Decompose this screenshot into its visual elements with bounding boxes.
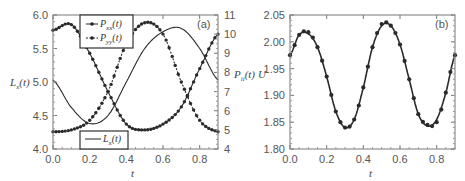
data-point (161, 32, 164, 35)
data-point (329, 93, 333, 97)
panel-a-x-title: t (131, 167, 135, 179)
data-point (140, 22, 143, 25)
data-point (180, 80, 183, 83)
data-point (106, 90, 109, 93)
data-point (116, 66, 119, 69)
data-point (448, 70, 452, 74)
data-point (63, 22, 66, 25)
data-point (122, 119, 125, 122)
panel-b-y-title: U (258, 68, 267, 80)
panel-a-y-right-title: Pii(t) (233, 68, 255, 83)
panel-b-ticks: 0.00.20.40.60.81.801.851.901.952.002.05 (264, 9, 455, 165)
panel-b-frame (290, 15, 455, 149)
panel-b-curves (288, 20, 457, 130)
x-tick-label: 0.8 (192, 153, 207, 165)
y-left-tick-label: 5.5 (33, 43, 48, 55)
data-point (348, 125, 352, 129)
y-tick-label: 1.95 (264, 63, 285, 75)
data-point (88, 119, 91, 122)
data-point (91, 115, 94, 118)
x-tick-label: 0.4 (356, 153, 371, 165)
data-point (352, 117, 356, 121)
data-point (210, 41, 213, 44)
data-point (180, 105, 183, 108)
data-point (195, 73, 198, 76)
data-point (204, 54, 207, 57)
data-point (306, 30, 310, 34)
data-point (97, 107, 100, 110)
data-point (128, 125, 131, 128)
y-tick-label: 2.05 (264, 9, 285, 21)
data-point (61, 24, 64, 27)
panel-b: 0.00.20.40.60.81.801.851.901.952.002.05 … (258, 9, 457, 179)
data-point (366, 65, 370, 69)
panel-a-curves (51, 21, 219, 134)
data-point (361, 85, 365, 89)
data-point (152, 22, 155, 25)
data-point (189, 87, 192, 90)
data-point (125, 122, 128, 125)
data-point (103, 84, 106, 87)
x-tick-label: 0.2 (319, 153, 334, 165)
data-point (398, 42, 402, 46)
legend-pxx-marker-icon (90, 22, 94, 26)
data-point (140, 128, 143, 131)
data-point (421, 120, 425, 124)
data-point (67, 22, 70, 25)
y-tick-label: 2.00 (264, 36, 285, 48)
data-point (439, 108, 443, 112)
data-point (76, 30, 79, 33)
y-tick-label: 1.80 (264, 143, 285, 155)
data-point (357, 103, 361, 107)
data-point (174, 64, 177, 67)
data-point (207, 47, 210, 50)
data-point (171, 116, 174, 119)
data-point (137, 25, 140, 28)
data-point (149, 21, 152, 24)
data-point (109, 96, 112, 99)
series-u-line (290, 23, 455, 128)
data-point (375, 31, 379, 35)
y-right-tick-label: 10 (224, 28, 236, 40)
data-point (94, 111, 97, 114)
panel-a-legend-top: Pxx(t) Pyy(t) (80, 15, 133, 48)
data-point (174, 113, 177, 116)
x-tick-label: 0.2 (82, 153, 97, 165)
data-point (76, 126, 79, 129)
data-point (91, 58, 94, 61)
x-tick-label: 0.4 (119, 153, 134, 165)
data-point (198, 119, 201, 122)
data-point (112, 74, 115, 77)
data-point (73, 127, 76, 130)
panel-a-y-left-title: Lx(t) (9, 76, 30, 91)
y-left-tick-label: 6.0 (33, 9, 48, 21)
data-point (97, 71, 100, 74)
data-point (416, 112, 420, 116)
data-point (109, 83, 112, 86)
data-point (325, 75, 329, 79)
data-point (384, 20, 388, 24)
data-point (407, 77, 411, 81)
data-point (57, 26, 60, 29)
data-point (183, 100, 186, 103)
data-point (63, 129, 66, 132)
data-point (143, 21, 146, 24)
data-point (425, 123, 429, 127)
data-point (198, 67, 201, 70)
y-right-tick-label: 9 (224, 47, 230, 59)
panel-a-label: (a) (197, 18, 210, 30)
y-right-tick-label: 7 (224, 86, 230, 98)
data-point (430, 124, 434, 128)
y-left-tick-label: 4.5 (33, 110, 48, 122)
data-point (155, 126, 158, 129)
y-right-tick-label: 4 (224, 143, 230, 155)
data-point (161, 122, 164, 125)
data-point (164, 38, 167, 41)
data-point (403, 59, 407, 63)
data-point (152, 127, 155, 130)
data-point (192, 80, 195, 83)
x-tick-label: 0.6 (392, 153, 407, 165)
data-point (343, 126, 347, 130)
data-point (389, 24, 393, 28)
y-left-tick-label: 4.0 (33, 143, 48, 155)
